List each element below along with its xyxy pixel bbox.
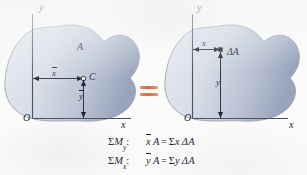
element-figure-graphics: [160, 0, 307, 135]
left-origin-label: O: [23, 113, 30, 123]
rhs-area: A: [188, 136, 195, 147]
equals-sign-between-panels: [140, 86, 158, 98]
ybar-variable: y: [146, 155, 151, 166]
delta-area-element: [218, 47, 222, 51]
equals-operator: =: [160, 155, 169, 166]
moment-subscript: x: [123, 162, 126, 171]
x-distance-label: x: [202, 39, 206, 48]
y-distance-label: y: [216, 78, 220, 87]
element-figure-panel: y x O x ΔA y: [160, 0, 307, 135]
left-y-axis-label: y: [39, 3, 43, 13]
centroid-figure-panel: y x O A C x y: [0, 0, 150, 135]
centroid-label: C: [89, 72, 96, 82]
colon: :: [126, 155, 129, 166]
area-shape: [5, 25, 139, 121]
moment-symbol: M: [114, 155, 123, 166]
colon: :: [126, 136, 129, 147]
equals-operator: =: [160, 136, 169, 147]
right-y-axis-label: y: [197, 3, 201, 13]
equation-body-moment-x: yA=ΣyΔA: [146, 155, 195, 166]
ybar-label: y: [79, 92, 83, 101]
right-origin-label: O: [184, 113, 191, 123]
equation-row-moment-y: ΣMy: xA=ΣxΔA: [0, 133, 307, 152]
rhs-area: A: [188, 155, 195, 166]
xbar-label: x: [52, 69, 56, 78]
equation-list: ΣMy: xA=ΣxΔA ΣMx: yA=ΣyΔA: [0, 133, 307, 171]
moment-subscript: y: [123, 143, 126, 152]
equation-tag-moment-x: ΣMx:: [108, 155, 129, 169]
equation-tag-moment-y: ΣMy:: [108, 136, 129, 150]
rhs-delta: Δ: [180, 155, 188, 166]
equation-row-moment-x: ΣMx: yA=ΣyΔA: [0, 152, 307, 171]
equals-top-bar: [140, 86, 158, 89]
lhs-area: A: [151, 136, 160, 147]
rhs-delta: Δ: [180, 136, 188, 147]
area-label: A: [77, 42, 83, 52]
area-shape: [165, 25, 299, 121]
lhs-area: A: [151, 155, 160, 166]
figure-page: y x O A C x y: [0, 0, 307, 175]
xbar-variable: x: [146, 136, 151, 147]
equals-bottom-bar: [140, 93, 158, 96]
equation-body-moment-y: xA=ΣxΔA: [146, 136, 195, 147]
right-x-axis-label: x: [289, 120, 293, 130]
moment-symbol: M: [114, 136, 123, 147]
left-x-axis-label: x: [121, 120, 125, 130]
delta-area-label: ΔA: [227, 47, 239, 57]
